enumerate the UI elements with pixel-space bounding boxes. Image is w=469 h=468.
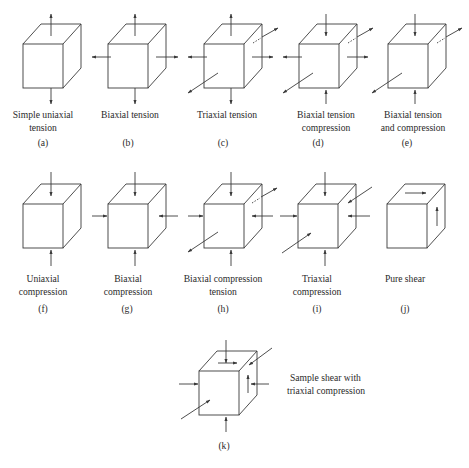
cube-j	[387, 184, 445, 248]
caption-d-line2: compression	[297, 121, 355, 134]
arrows-k	[179, 340, 272, 432]
caption-e-line2: and compression	[381, 121, 446, 134]
label-k: (k)	[218, 440, 229, 451]
stress-states-figure	[0, 0, 469, 468]
label-i: (i)	[312, 303, 321, 314]
arrows-c	[188, 14, 278, 104]
label-e: (e)	[402, 137, 413, 148]
cube-c	[204, 24, 262, 88]
caption-e-line1: Biaxial tension	[381, 108, 446, 121]
caption-f-line1: Uniaxial	[19, 272, 68, 285]
caption-k-line1: Sample shear with	[287, 371, 365, 384]
cube-a	[23, 24, 81, 88]
caption-f-line2: compression	[19, 285, 68, 298]
caption-i-line1: Triaxial	[293, 272, 342, 285]
caption-j: Pure shear	[385, 272, 425, 285]
caption-a-line2: tension	[13, 121, 74, 134]
arrows-i	[280, 172, 372, 266]
caption-g: Biaxial compression	[104, 272, 153, 298]
caption-a-line1: Simple uniaxial	[13, 108, 74, 121]
caption-d: Biaxial tension compression	[297, 108, 355, 134]
caption-e: Biaxial tension and compression	[381, 108, 446, 134]
caption-k: Sample shear with triaxial compression	[287, 371, 365, 397]
cube-f	[23, 184, 81, 248]
caption-h-line2: tension	[184, 285, 263, 298]
cube-d	[299, 24, 357, 88]
caption-d-line1: Biaxial tension	[297, 108, 355, 121]
arrows-e	[372, 14, 462, 104]
cube-b	[108, 24, 166, 88]
label-d: (d)	[312, 137, 323, 148]
cube-e	[388, 24, 446, 88]
label-g: (g)	[121, 303, 132, 314]
label-a: (a)	[38, 137, 49, 148]
label-f: (f)	[38, 303, 48, 314]
cube-i	[298, 184, 356, 248]
caption-k-line2: triaxial compression	[287, 384, 365, 397]
caption-c-line1: Triaxial tension	[197, 108, 257, 121]
arrows-b	[92, 14, 178, 104]
caption-b-line1: Biaxial tension	[101, 108, 159, 121]
arrows-d	[283, 14, 373, 104]
arrows-h	[188, 172, 277, 266]
label-h: (h)	[217, 303, 228, 314]
label-b: (b)	[122, 137, 133, 148]
caption-g-line2: compression	[104, 285, 153, 298]
caption-h-line1: Biaxial compression	[184, 272, 263, 285]
caption-f: Uniaxial compression	[19, 272, 68, 298]
caption-j-line1: Pure shear	[385, 272, 425, 285]
cube-g	[108, 184, 166, 248]
caption-a: Simple uniaxial tension	[13, 108, 74, 134]
arrows-g	[92, 172, 178, 266]
label-j: (j)	[400, 303, 409, 314]
caption-h: Biaxial compression tension	[184, 272, 263, 298]
caption-g-line1: Biaxial	[104, 272, 153, 285]
label-c: (c)	[218, 137, 229, 148]
caption-c: Triaxial tension	[197, 108, 257, 121]
caption-i-line2: compression	[293, 285, 342, 298]
caption-i: Triaxial compression	[293, 272, 342, 298]
caption-b: Biaxial tension	[101, 108, 159, 121]
